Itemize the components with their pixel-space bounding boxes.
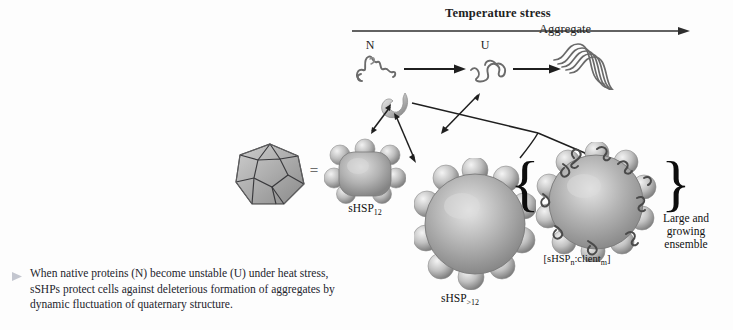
shsp12-label: sHSP12 <box>320 202 410 217</box>
arrow-dimer-shsp12-icon <box>368 103 394 135</box>
shsp-client-complex-label: [sHSPn:clientm] <box>512 253 642 267</box>
aggregate-label: Aggregate <box>520 22 610 37</box>
client-label-open: [sHSP <box>544 253 571 264</box>
aggregate-icon <box>552 38 622 90</box>
right-curly-brace: } <box>661 152 691 214</box>
shsp-gt12-label: sHSP>12 <box>400 292 520 307</box>
client-label-mid: :client <box>574 253 600 264</box>
ensemble-line-2: growing <box>640 225 732 238</box>
triangle-bullet-icon <box>12 272 23 281</box>
ensemble-line-1: Large and <box>640 212 732 225</box>
figure-caption: When native proteins (N) become unstable… <box>30 266 360 313</box>
ensemble-label: Large and growing ensemble <box>640 212 732 251</box>
temperature-stress-label: Temperature stress <box>398 6 598 21</box>
equals-sign: = <box>306 162 322 179</box>
shsp-gt12-subscript: >12 <box>467 298 480 307</box>
arrow-native-to-unfolded-icon <box>404 64 466 74</box>
unfolded-protein-icon <box>468 50 512 86</box>
shsp12-subscript: 12 <box>374 208 382 217</box>
native-protein-icon <box>352 50 398 86</box>
shsp-gt12-label-text: sHSP <box>441 292 467 304</box>
dodecahedron-wireframe-icon <box>232 142 308 208</box>
client-label-close: ] <box>607 253 611 264</box>
ensemble-line-3: ensemble <box>640 238 732 251</box>
figure-panel: Temperature stress N U Aggregate <box>0 0 733 330</box>
shsp12-label-text: sHSP <box>348 202 374 214</box>
